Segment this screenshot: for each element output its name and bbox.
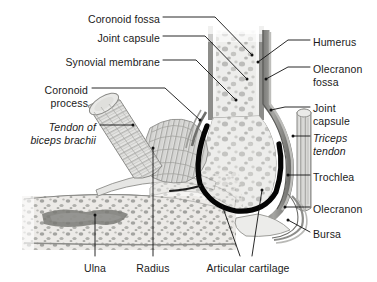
label-bursa: Bursa [313, 228, 341, 241]
triceps-tendon-body [297, 109, 311, 211]
label-olecranon-fossa-line1: Olecranon [313, 63, 362, 76]
label-radius: Radius [136, 262, 169, 275]
label-coronoid-fossa: Coronoid fossa [88, 13, 160, 26]
label-olecranon: Olecranon [313, 203, 362, 216]
label-joint-capsule-right-line2: capsule [313, 115, 350, 128]
label-tendon-biceps-line1: Tendon of [49, 121, 96, 134]
label-triceps-tendon-line2: tendon [313, 145, 346, 158]
label-joint-capsule-left: Joint capsule [97, 32, 160, 45]
label-coronoid-process-line1: Coronoid [45, 84, 88, 97]
label-triceps-tendon-line1: Triceps [313, 132, 347, 145]
label-trochlea: Trochlea [313, 171, 354, 184]
label-synovial-membrane: Synovial membrane [66, 56, 161, 69]
label-ulna: Ulna [84, 262, 106, 275]
label-articular-cartilage: Articular cartilage [206, 262, 289, 275]
label-olecranon-fossa-line2: fossa [313, 76, 339, 89]
anatomy-figure: Coronoid fossa Joint capsule Synovial me… [0, 0, 377, 282]
label-joint-capsule-right-line1: Joint [313, 102, 336, 115]
label-coronoid-process-line2: process [51, 97, 88, 110]
humerus-shaft [205, 26, 267, 122]
label-tendon-biceps-line2: biceps brachii [30, 134, 96, 147]
label-humerus: Humerus [313, 36, 356, 49]
